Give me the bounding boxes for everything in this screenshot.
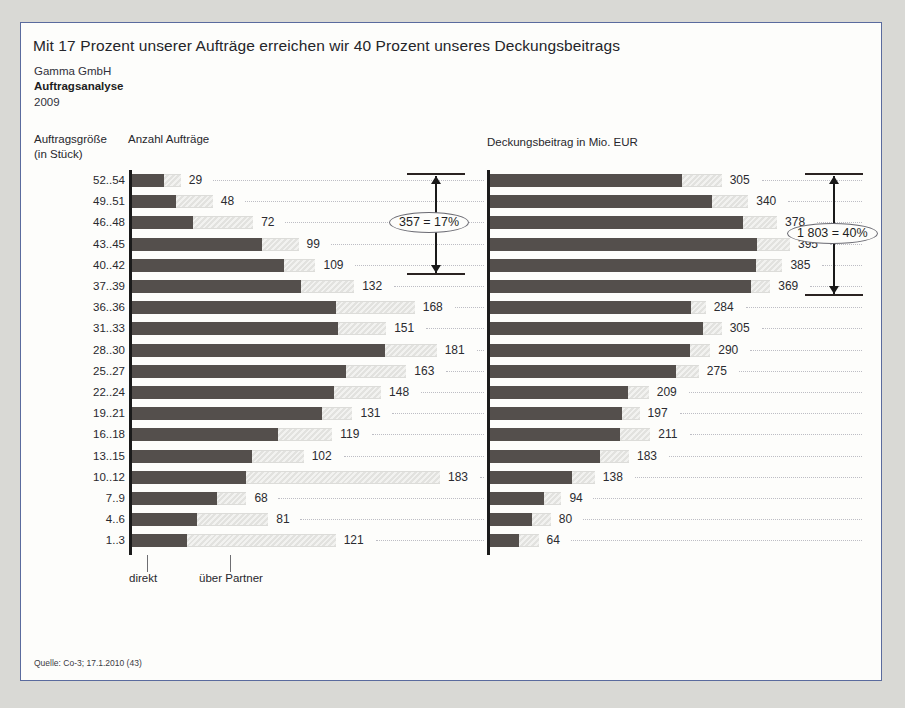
bar-value-label: 72 bbox=[261, 212, 274, 233]
leader-line bbox=[477, 350, 484, 352]
leader-line bbox=[746, 307, 862, 309]
leader-line bbox=[762, 328, 862, 330]
leader-line bbox=[750, 350, 862, 352]
bar-segment-direkt bbox=[490, 450, 600, 463]
leader-line bbox=[376, 540, 484, 542]
bar-value-label: 138 bbox=[603, 467, 623, 488]
category-label: 28..30 bbox=[41, 340, 125, 361]
bar-segment-partner bbox=[690, 344, 710, 357]
bar-segment-direkt bbox=[490, 322, 703, 335]
bar-value-label: 109 bbox=[323, 255, 343, 276]
leader-line bbox=[300, 519, 484, 521]
category-label-column: 52..5449..5146..4843..4540..4237..3936..… bbox=[41, 170, 125, 555]
slide: Mit 17 Prozent unserer Aufträge erreiche… bbox=[20, 22, 882, 681]
bar-value-label: 148 bbox=[389, 382, 409, 403]
category-label: 13..15 bbox=[41, 446, 125, 467]
bracket-cap-bottom bbox=[805, 294, 863, 296]
page-background: Mit 17 Prozent unserer Aufträge erreiche… bbox=[0, 0, 905, 708]
bar-value-label: 340 bbox=[756, 191, 776, 212]
bar-segment-partner bbox=[246, 471, 440, 484]
bar-value-label: 209 bbox=[657, 382, 677, 403]
source-note: Quelle: Co-3; 17.1.2010 (43) bbox=[34, 658, 142, 668]
bracket-value-label: 357 = 17% bbox=[389, 212, 469, 233]
category-label: 25..27 bbox=[41, 361, 125, 382]
bar-segment-direkt bbox=[490, 428, 620, 441]
bar-segment-direkt bbox=[490, 513, 532, 526]
bar-segment-direkt bbox=[490, 365, 676, 378]
bar-value-label: 211 bbox=[658, 424, 677, 445]
bracket-arrow-down-icon bbox=[829, 286, 839, 294]
bar-value-label: 181 bbox=[445, 340, 465, 361]
leader-line bbox=[372, 434, 484, 436]
bar-segment-direkt bbox=[132, 238, 262, 251]
category-label: 36..36 bbox=[41, 297, 125, 318]
bar-segment-direkt bbox=[132, 407, 322, 420]
bracket-arrow-up-icon bbox=[431, 176, 441, 184]
leader-line bbox=[344, 456, 484, 458]
bar-segment-partner bbox=[712, 195, 748, 208]
bar-segment-partner bbox=[278, 428, 332, 441]
leader-line bbox=[739, 371, 862, 373]
leader-line bbox=[788, 201, 862, 203]
bar-segment-partner bbox=[757, 238, 790, 251]
leader-line bbox=[669, 456, 862, 458]
bar-segment-partner bbox=[262, 238, 299, 251]
bar-segment-partner bbox=[284, 259, 315, 272]
bar-value-label: 305 bbox=[730, 170, 750, 191]
legend-tick-partner bbox=[230, 555, 231, 572]
right-chart-caption: Deckungsbeitrag in Mio. EUR bbox=[487, 136, 638, 148]
bar-segment-partner bbox=[217, 492, 247, 505]
leader-line bbox=[680, 413, 862, 415]
bar-segment-partner bbox=[519, 534, 538, 547]
bracket-cap-bottom bbox=[407, 273, 465, 275]
category-label: 49..51 bbox=[41, 191, 125, 212]
bar-segment-direkt bbox=[490, 174, 682, 187]
bar-value-label: 385 bbox=[790, 255, 810, 276]
leader-line bbox=[690, 434, 862, 436]
bar-segment-direkt bbox=[132, 386, 334, 399]
leader-line bbox=[762, 180, 862, 182]
leader-line bbox=[213, 180, 484, 182]
bracket-cap-top bbox=[805, 173, 863, 175]
bar-value-label: 369 bbox=[778, 276, 798, 297]
leader-line bbox=[355, 265, 484, 267]
legend-label-partner: über Partner bbox=[199, 572, 263, 584]
category-label: 16..18 bbox=[41, 424, 125, 445]
category-label: 19..21 bbox=[41, 403, 125, 424]
subject-title: Auftragsanalyse bbox=[34, 80, 123, 92]
leader-line bbox=[426, 328, 484, 330]
bar-value-label: 183 bbox=[637, 446, 657, 467]
leader-line bbox=[455, 307, 484, 309]
category-label: 37..39 bbox=[41, 276, 125, 297]
bar-segment-direkt bbox=[490, 280, 751, 293]
bar-segment-partner bbox=[676, 365, 699, 378]
bar-segment-partner bbox=[334, 386, 381, 399]
company-name: Gamma GmbH bbox=[34, 65, 111, 77]
category-label: 1..3 bbox=[41, 530, 125, 551]
left-bar-chart: 2948729910913216815118116314813111910218… bbox=[129, 170, 489, 555]
category-label: 31..33 bbox=[41, 318, 125, 339]
bar-segment-partner bbox=[751, 280, 771, 293]
bar-value-label: 305 bbox=[730, 318, 750, 339]
bar-segment-partner bbox=[628, 386, 649, 399]
bar-value-label: 102 bbox=[312, 446, 332, 467]
legend-tick-direkt bbox=[147, 555, 148, 572]
bar-value-label: 131 bbox=[360, 403, 380, 424]
bar-value-label: 80 bbox=[559, 509, 572, 530]
bar-segment-direkt bbox=[132, 301, 336, 314]
leader-line bbox=[480, 477, 484, 479]
bar-segment-partner bbox=[532, 513, 551, 526]
bar-segment-direkt bbox=[490, 386, 628, 399]
bar-segment-direkt bbox=[490, 216, 743, 229]
leader-line bbox=[331, 244, 484, 246]
left-chart-caption: Anzahl Aufträge bbox=[128, 133, 209, 145]
leader-line bbox=[392, 413, 484, 415]
category-label: 22..24 bbox=[41, 382, 125, 403]
bar-segment-partner bbox=[197, 513, 268, 526]
bar-segment-partner bbox=[176, 195, 212, 208]
bracket-arrow-up-icon bbox=[829, 176, 839, 184]
bar-segment-direkt bbox=[490, 471, 572, 484]
bar-segment-direkt bbox=[490, 534, 519, 547]
bar-value-label: 29 bbox=[189, 170, 202, 191]
category-label: 4..6 bbox=[41, 509, 125, 530]
